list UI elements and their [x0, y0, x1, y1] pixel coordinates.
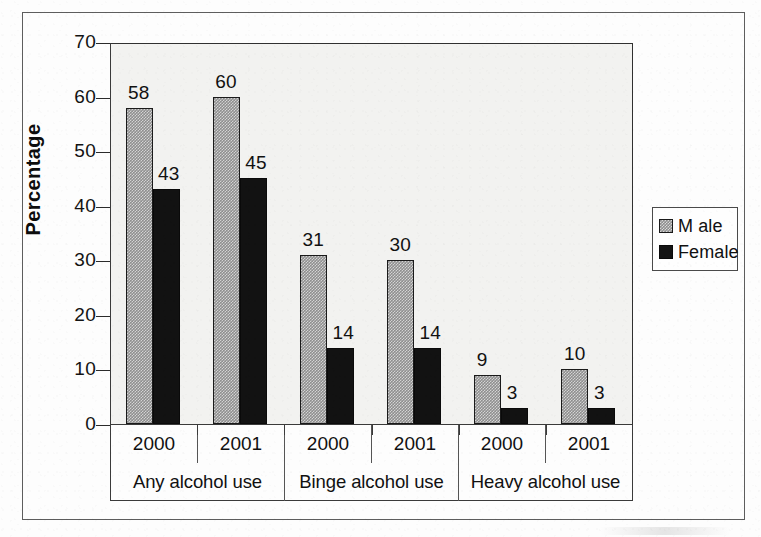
- x-axis-year-cell: 2000: [111, 425, 198, 463]
- bar-value-label-male: 31: [302, 229, 324, 251]
- x-axis-group-cell: Any alcohol use: [111, 463, 285, 501]
- y-axis-title: Percentage: [22, 85, 45, 275]
- x-axis-group-cell: Heavy alcohol use: [459, 463, 632, 501]
- bar-male: [126, 108, 153, 425]
- y-axis-tick: [96, 316, 110, 317]
- plot-area: 584360453114301493103: [110, 43, 633, 425]
- legend: M aleFemale: [652, 207, 738, 271]
- legend-item-label: M ale: [678, 216, 723, 237]
- bar-female: [153, 189, 180, 424]
- y-axis-tick-label: 10: [26, 358, 96, 380]
- x-axis-year-cell: 2001: [372, 425, 459, 463]
- y-axis-tick-label: 20: [26, 304, 96, 326]
- y-axis-tick: [96, 425, 110, 426]
- y-axis-tick: [96, 152, 110, 153]
- bar-male: [300, 255, 327, 424]
- y-axis-tick-label: 0: [26, 413, 96, 435]
- page-edge-artifact: [600, 527, 730, 535]
- x-axis-year-cell: 2000: [285, 425, 372, 463]
- x-axis-group-row: Any alcohol useBinge alcohol useHeavy al…: [111, 463, 632, 501]
- bar-female: [414, 348, 441, 424]
- male-dithered-swatch: [659, 219, 673, 233]
- bar-value-label-male: 60: [215, 71, 237, 93]
- bar-value-label-female: 43: [158, 163, 180, 185]
- bar-value-label-male: 9: [477, 349, 488, 371]
- bar-value-label-male: 30: [390, 234, 412, 256]
- bar-male: [474, 375, 501, 424]
- bar-male: [561, 369, 588, 424]
- x-axis-year-cell: 2001: [198, 425, 285, 463]
- chart-figure: 706050403020100 Percentage 5843604531143…: [0, 0, 761, 537]
- female-solid-swatch: [659, 245, 673, 259]
- bar-value-label-female: 3: [507, 382, 518, 404]
- x-axis-year-cell: 2000: [459, 425, 546, 463]
- y-axis-tick: [96, 261, 110, 262]
- y-axis-tick-label: 70: [26, 31, 96, 53]
- x-axis-tick: [372, 425, 373, 435]
- bar-male: [213, 97, 240, 424]
- bar-female: [501, 408, 528, 424]
- bar-value-label-female: 14: [420, 322, 442, 344]
- x-axis-tick: [459, 425, 460, 435]
- y-axis-tick: [96, 370, 110, 371]
- bar-value-label-male: 10: [564, 343, 586, 365]
- bar-value-label-female: 14: [332, 322, 354, 344]
- legend-item-label: Female: [678, 242, 739, 263]
- y-axis-tick: [96, 43, 110, 44]
- y-axis-tick: [96, 207, 110, 208]
- x-axis: 200020012000200120002001 Any alcohol use…: [110, 425, 633, 501]
- legend-item: M ale: [659, 213, 733, 239]
- x-axis-year-cell: 2001: [546, 425, 632, 463]
- x-axis-tick: [546, 425, 547, 435]
- bar-value-label-female: 45: [245, 152, 267, 174]
- y-axis-tick: [96, 98, 110, 99]
- bar-female: [327, 348, 354, 424]
- legend-item: Female: [659, 239, 733, 265]
- bar-value-label-male: 58: [128, 82, 150, 104]
- x-axis-group-cell: Binge alcohol use: [285, 463, 459, 501]
- bar-female: [240, 178, 267, 424]
- bar-value-label-female: 3: [594, 382, 605, 404]
- bar-male: [387, 260, 414, 424]
- x-axis-tick: [197, 425, 198, 435]
- bar-female: [588, 408, 615, 424]
- x-axis-tick: [284, 425, 285, 435]
